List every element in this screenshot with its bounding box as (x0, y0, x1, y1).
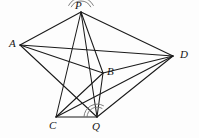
segment-P-Q (81, 12, 97, 117)
edges-group (20, 12, 173, 117)
angle-marks-group (69, 0, 104, 117)
vertex-label-c: C (49, 120, 56, 131)
vertex-label-a: A (9, 38, 16, 49)
vertex-label-d: D (180, 49, 188, 60)
segment-A-B (20, 45, 103, 73)
vertex-label-p: P (75, 0, 82, 11)
figure-canvas (0, 0, 199, 138)
vertex-label-b: B (107, 66, 114, 77)
geometry-figure: PADBCQ (0, 0, 199, 138)
segment-A-P (20, 12, 81, 45)
vertex-label-q: Q (92, 121, 100, 132)
segment-C-D (56, 56, 173, 117)
